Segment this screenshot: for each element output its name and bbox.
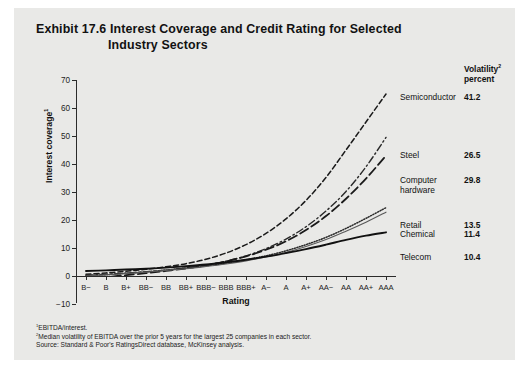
x-tick-label: AA bbox=[341, 283, 351, 292]
x-tick-label: BB− bbox=[139, 283, 154, 292]
y-tick-label: 40 bbox=[61, 160, 70, 169]
footnote-source: Source: Standard & Poor's RatingsDirect … bbox=[36, 341, 496, 350]
series-lines bbox=[76, 80, 396, 276]
volatility-value-steel: 26.5 bbox=[464, 150, 480, 160]
y-tick-mark bbox=[72, 276, 76, 277]
x-tick-label: B− bbox=[81, 283, 91, 292]
plot-area: 706050403020100−10 B−BB+BB−BBBB+BBB−BBBB… bbox=[76, 80, 396, 276]
x-tick-label: BBB bbox=[218, 283, 233, 292]
series-end-labels: Semiconductor41.2Steel26.5Computerhardwa… bbox=[398, 80, 516, 280]
x-tick-mark bbox=[306, 276, 307, 280]
series-label-line: Semiconductor bbox=[400, 92, 456, 102]
series-label-chemical: Chemical bbox=[400, 229, 435, 239]
y-tick-label: 50 bbox=[61, 132, 70, 141]
exhibit-title: Exhibit 17.6 Interest Coverage and Credi… bbox=[36, 21, 456, 53]
x-tick-label: BB+ bbox=[179, 283, 194, 292]
series-label-line: Telecom bbox=[400, 252, 431, 262]
series-line-computer-hardware bbox=[86, 156, 386, 276]
x-axis-title: Rating bbox=[76, 296, 396, 306]
volatility-header-footnote-marker: 2 bbox=[498, 63, 501, 69]
title-line-1: Exhibit 17.6 Interest Coverage and Credi… bbox=[36, 21, 456, 37]
series-label-steel: Steel bbox=[400, 150, 419, 160]
footnote-2: 2Median volatility of EBITDA over the pr… bbox=[36, 333, 496, 342]
volatility-value-chemical: 11.4 bbox=[464, 229, 480, 239]
y-tick-label: 30 bbox=[61, 188, 70, 197]
x-tick-label: B+ bbox=[121, 283, 131, 292]
x-tick-label: BBB+ bbox=[236, 283, 256, 292]
x-tick-mark bbox=[126, 276, 127, 280]
series-label-computer-hardware: Computerhardware bbox=[400, 175, 437, 195]
footnote-1: 1EBITDA/interest. bbox=[36, 324, 496, 333]
x-tick-mark bbox=[86, 276, 87, 280]
x-tick-label: AA+ bbox=[359, 283, 374, 292]
series-label-line: hardware bbox=[400, 185, 437, 195]
y-axis-title: Interest coverage1 bbox=[44, 109, 54, 183]
volatility-value-semiconductor: 41.2 bbox=[464, 92, 480, 102]
x-tick-label: AAA bbox=[378, 283, 393, 292]
x-tick-mark bbox=[206, 276, 207, 280]
x-axis-line bbox=[76, 276, 396, 277]
x-tick-mark bbox=[106, 276, 107, 280]
series-line-chemical bbox=[86, 212, 386, 276]
y-tick-label: 0 bbox=[65, 272, 70, 281]
x-tick-mark bbox=[166, 276, 167, 280]
series-line-semiconductor bbox=[86, 94, 386, 274]
volatility-value-computer-hardware: 29.8 bbox=[464, 175, 480, 185]
x-tick-mark bbox=[246, 276, 247, 280]
x-tick-mark bbox=[146, 276, 147, 280]
y-axis-footnote-marker: 1 bbox=[43, 109, 49, 112]
x-tick-label: A bbox=[283, 283, 288, 292]
x-tick-label: BBB− bbox=[196, 283, 216, 292]
x-tick-mark bbox=[326, 276, 327, 280]
y-tick-label: 60 bbox=[61, 104, 70, 113]
y-tick-label: 70 bbox=[61, 76, 70, 85]
series-label-line: Chemical bbox=[400, 229, 435, 239]
x-tick-mark bbox=[186, 276, 187, 280]
x-tick-mark bbox=[266, 276, 267, 280]
series-label-line: Steel bbox=[400, 150, 419, 160]
series-label-line: Computer bbox=[400, 175, 437, 185]
x-tick-mark bbox=[286, 276, 287, 280]
exhibit-panel: Exhibit 17.6 Interest Coverage and Credi… bbox=[14, 8, 515, 360]
y-tick-label: 20 bbox=[61, 216, 70, 225]
series-line-telecom bbox=[86, 232, 386, 271]
x-tick-mark bbox=[386, 276, 387, 280]
footnotes: 1EBITDA/interest. 2Median volatility of … bbox=[36, 324, 496, 350]
x-tick-mark bbox=[226, 276, 227, 280]
volatility-header-line-1: Volatility2 bbox=[464, 64, 501, 74]
title-line-2: Industry Sectors bbox=[36, 37, 456, 53]
series-label-telecom: Telecom bbox=[400, 252, 431, 262]
y-tick-label: −10 bbox=[56, 300, 70, 309]
x-tick-label: A− bbox=[261, 283, 271, 292]
x-tick-label: A+ bbox=[301, 283, 311, 292]
y-tick-label: 10 bbox=[61, 244, 70, 253]
volatility-value-telecom: 10.4 bbox=[464, 252, 480, 262]
x-tick-mark bbox=[346, 276, 347, 280]
series-line-steel bbox=[86, 137, 386, 275]
x-tick-mark bbox=[366, 276, 367, 280]
x-tick-label: BB bbox=[161, 283, 171, 292]
series-label-semiconductor: Semiconductor bbox=[400, 92, 456, 102]
x-tick-label: B bbox=[103, 283, 108, 292]
x-tick-label: AA− bbox=[319, 283, 334, 292]
